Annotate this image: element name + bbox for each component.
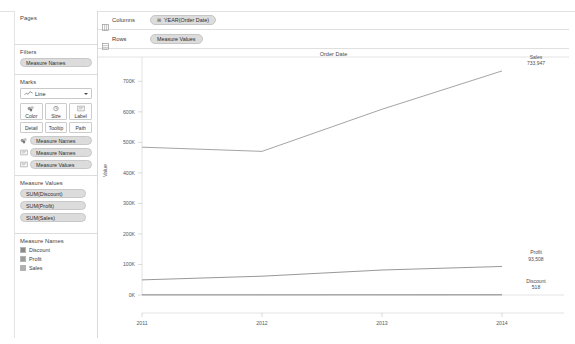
label-text-icon	[77, 105, 85, 112]
legend-label-profit: Profit	[29, 256, 42, 262]
expand-plus-icon[interactable]: ⊞	[157, 18, 161, 23]
measure-value-pill-sales[interactable]: SUM(Sales)	[20, 213, 86, 222]
size-circle-icon	[52, 105, 60, 112]
marks-applied-label-values-row: Measure Values	[20, 160, 92, 169]
annotation-value-sales: 733,947	[527, 60, 545, 66]
line-chart-icon	[24, 90, 33, 97]
series-line-sales[interactable]	[142, 71, 502, 151]
marks-card-title: Marks	[20, 79, 92, 85]
columns-pill-year-order-date[interactable]: ⊞ YEAR(Order Date)	[150, 15, 216, 25]
label-text-icon	[20, 161, 28, 168]
marks-path-button[interactable]: Path	[69, 122, 92, 133]
legend-label-sales: Sales	[29, 265, 43, 271]
marks-secondary-row: Detail Tooltip Path	[20, 122, 92, 133]
mark-type-label: Line	[35, 91, 84, 97]
marks-size-label: Size	[51, 113, 61, 119]
marks-label-label: Label	[75, 113, 87, 119]
marks-detail-button[interactable]: Detail	[20, 122, 43, 133]
marks-pill-label-measure-values[interactable]: Measure Values	[30, 160, 92, 169]
marks-label-button[interactable]: Label	[69, 103, 92, 120]
annotation-name-sales: Sales	[530, 54, 543, 60]
chevron-down-icon	[84, 93, 88, 95]
marks-size-button[interactable]: Size	[45, 103, 68, 120]
measure-value-pill-discount[interactable]: SUM(Discount)	[20, 189, 86, 198]
rows-grid-icon	[102, 36, 109, 43]
y-tick-label: 0K	[129, 292, 136, 298]
y-tick-label: 100K	[123, 261, 136, 267]
measure-values-card-title: Measure Values	[20, 180, 92, 186]
legend-item-profit[interactable]: Profit	[20, 256, 92, 262]
columns-grid-icon	[102, 17, 109, 24]
y-tick-label: 400K	[123, 170, 136, 176]
mark-type-dropdown[interactable]: Line	[20, 88, 92, 99]
marks-detail-label: Detail	[25, 125, 38, 131]
measure-names-legend-card: Measure Names Discount Profit Sales	[15, 234, 97, 280]
filter-pill-measure-names[interactable]: Measure Names	[20, 58, 92, 67]
marks-path-label: Path	[76, 125, 86, 131]
pages-card: Pages	[15, 11, 97, 45]
marks-pill-color-measure-names[interactable]: Measure Names	[30, 136, 92, 145]
columns-shelf-label: Columns	[112, 17, 150, 23]
color-palette-icon	[27, 105, 35, 112]
y-tick-label: 700K	[123, 78, 136, 84]
x-tick-label: 2013	[376, 320, 388, 326]
legend-swatch-sales	[20, 265, 26, 271]
y-tick-label: 300K	[123, 200, 136, 206]
columns-shelf[interactable]: Columns ⊞ YEAR(Order Date)	[98, 11, 569, 30]
legend-item-sales[interactable]: Sales	[20, 265, 92, 271]
marks-tooltip-label: Tooltip	[49, 125, 63, 131]
columns-pill-label: YEAR(Order Date)	[164, 17, 209, 23]
filters-card: Filters Measure Names	[15, 45, 97, 75]
measure-value-pill-profit[interactable]: SUM(Profit)	[20, 201, 86, 210]
measure-names-legend-title: Measure Names	[20, 238, 92, 244]
label-text-icon	[20, 149, 28, 156]
marks-applied-color-row: Measure Names	[20, 136, 92, 145]
marks-tooltip-button[interactable]: Tooltip	[45, 122, 68, 133]
y-tick-label: 200K	[123, 231, 136, 237]
annotation-name-discount: Discount	[526, 278, 546, 284]
rows-shelf-label: Rows	[112, 36, 150, 42]
rows-pill-label: Measure Values	[157, 36, 196, 42]
legend-swatch-discount	[20, 247, 26, 253]
line-chart-svg[interactable]: 0K100K200K300K400K500K600K700K2011201220…	[98, 49, 569, 338]
marks-card: Marks Line	[15, 75, 97, 176]
y-tick-label: 600K	[123, 109, 136, 115]
shelf-area: Columns ⊞ YEAR(Order Date) Rows Measure …	[98, 11, 569, 49]
x-tick-label: 2014	[496, 320, 508, 326]
worksheet-sidebar: Pages Filters Measure Names Marks Line	[14, 11, 98, 338]
filters-card-title: Filters	[20, 49, 92, 55]
marks-color-label: Color	[25, 113, 37, 119]
marks-pill-label-measure-names[interactable]: Measure Names	[30, 148, 92, 157]
x-tick-label: 2012	[256, 320, 268, 326]
x-tick-label: 2011	[136, 320, 147, 326]
pages-card-title: Pages	[20, 15, 92, 21]
legend-label-discount: Discount	[29, 247, 50, 253]
legend-swatch-profit	[20, 256, 26, 262]
marks-applied-label-row: Measure Names	[20, 148, 92, 157]
annotation-value-profit: 93,508	[528, 256, 544, 262]
annotation-name-profit: Profit	[530, 249, 542, 255]
y-tick-label: 500K	[123, 139, 136, 145]
tableau-worksheet: Pages Filters Measure Names Marks Line	[0, 0, 575, 344]
visualization-pane: Order Date Value 0K100K200K300K400K500K6…	[98, 49, 569, 338]
rows-pill-measure-values[interactable]: Measure Values	[150, 34, 203, 44]
series-line-profit[interactable]	[142, 266, 502, 279]
annotation-value-discount: 518	[532, 284, 541, 290]
marks-property-row: Color Size	[20, 103, 92, 120]
legend-item-discount[interactable]: Discount	[20, 247, 92, 253]
color-palette-icon	[20, 137, 28, 144]
rows-shelf[interactable]: Rows Measure Values	[98, 30, 569, 49]
marks-color-button[interactable]: Color	[20, 103, 43, 120]
measure-values-card: Measure Values SUM(Discount) SUM(Profit)…	[15, 176, 97, 234]
